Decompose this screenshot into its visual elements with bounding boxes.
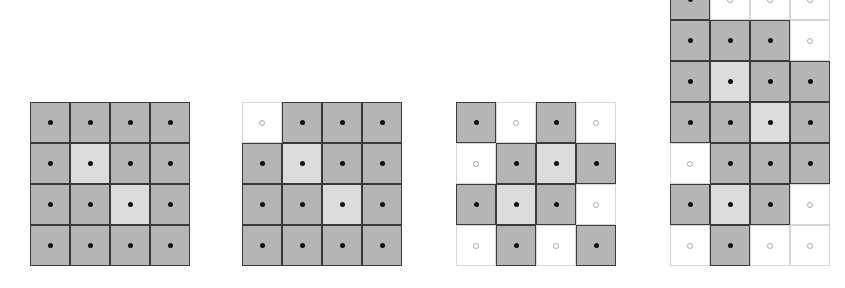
dot-icon: [300, 243, 305, 248]
grid-cell-filled: [322, 225, 362, 266]
dot-icon: [380, 161, 385, 166]
dot-icon: [260, 161, 265, 166]
grid-cell-filled: [496, 143, 536, 184]
dot-icon: [728, 79, 733, 84]
dot-icon: [88, 161, 93, 166]
grid-cell-empty: [750, 0, 790, 20]
grid-cell-filled: [30, 102, 70, 143]
grid-cell-empty: [670, 143, 710, 184]
grid-cell-filled: [576, 143, 616, 184]
dot-icon: [728, 161, 733, 166]
grid-cell-empty: [536, 225, 576, 266]
dot-icon: [48, 243, 53, 248]
grid-cell-light: [282, 143, 322, 184]
dot-icon: [260, 202, 265, 207]
grid-cell-filled: [30, 184, 70, 225]
grid-cell-empty: [790, 225, 830, 266]
grid-cell-filled: [790, 61, 830, 102]
dot-icon: [128, 243, 133, 248]
dot-icon: [554, 202, 559, 207]
dot-icon: [808, 161, 813, 166]
grid-cell-filled: [790, 102, 830, 143]
dot-icon: [728, 243, 733, 248]
grid-cell-empty: [456, 143, 496, 184]
grid-cell-filled: [70, 102, 110, 143]
dot-icon: [808, 120, 813, 125]
dot-icon: [340, 161, 345, 166]
dot-icon: [260, 243, 265, 248]
hollow-circle-icon: [513, 120, 519, 126]
grid-cell-filled: [536, 102, 576, 143]
grid-cell-light: [710, 61, 750, 102]
dot-icon: [168, 243, 173, 248]
dot-icon: [688, 202, 693, 207]
grid-cell-filled: [536, 184, 576, 225]
grid-cell-empty: [790, 0, 830, 20]
dot-icon: [594, 161, 599, 166]
grid-cell-light: [322, 184, 362, 225]
dot-icon: [728, 120, 733, 125]
dot-icon: [768, 38, 773, 43]
dot-icon: [768, 120, 773, 125]
grid-cell-filled: [362, 225, 402, 266]
grid-cell-filled: [710, 225, 750, 266]
dot-icon: [48, 120, 53, 125]
grid-cell-filled: [790, 143, 830, 184]
hollow-circle-icon: [553, 243, 559, 249]
grid-cell-filled: [362, 184, 402, 225]
dot-icon: [300, 120, 305, 125]
grid-cell-empty: [750, 225, 790, 266]
hollow-circle-icon: [807, 202, 813, 208]
hollow-circle-icon: [593, 120, 599, 126]
hollow-circle-icon: [767, 243, 773, 249]
dot-icon: [168, 161, 173, 166]
dot-icon: [300, 161, 305, 166]
dot-icon: [474, 120, 479, 125]
grid-cell-light: [536, 143, 576, 184]
hollow-circle-icon: [807, 38, 813, 44]
grid-cell-filled: [30, 143, 70, 184]
grid-cell-filled: [670, 61, 710, 102]
grid-cell-filled: [242, 225, 282, 266]
grid-cell-filled: [750, 184, 790, 225]
hollow-circle-icon: [473, 243, 479, 249]
hollow-circle-icon: [473, 161, 479, 167]
grid-cell-filled: [110, 143, 150, 184]
grid-cell-empty: [496, 102, 536, 143]
grid-cell-filled: [30, 225, 70, 266]
grid-cell-filled: [70, 225, 110, 266]
grid-cell-filled: [150, 143, 190, 184]
dot-icon: [380, 120, 385, 125]
dot-icon: [88, 202, 93, 207]
grid-cell-light: [750, 102, 790, 143]
dot-icon: [48, 202, 53, 207]
grid-cell-empty: [242, 102, 282, 143]
grid-cell-filled: [362, 143, 402, 184]
dot-icon: [808, 79, 813, 84]
dot-icon: [688, 38, 693, 43]
grid-cell-filled: [750, 20, 790, 61]
grid-cell-empty: [670, 225, 710, 266]
grid-cell-filled: [456, 184, 496, 225]
dot-icon: [128, 202, 133, 207]
hollow-circle-icon: [687, 243, 693, 249]
grid-cell-filled: [322, 143, 362, 184]
dot-icon: [514, 243, 519, 248]
dot-icon: [514, 202, 519, 207]
dot-icon: [168, 120, 173, 125]
grid-cell-filled: [710, 20, 750, 61]
dot-icon: [728, 38, 733, 43]
hollow-circle-icon: [767, 0, 773, 3]
grid-cell-filled: [242, 143, 282, 184]
grid-cell-filled: [282, 184, 322, 225]
grid-cell-filled: [70, 184, 110, 225]
hollow-circle-icon: [593, 202, 599, 208]
dot-icon: [474, 202, 479, 207]
dot-icon: [128, 120, 133, 125]
dot-icon: [688, 0, 693, 2]
grid-cell-light: [710, 184, 750, 225]
dot-icon: [340, 202, 345, 207]
grid-cell-filled: [322, 102, 362, 143]
grid-cell-empty: [576, 184, 616, 225]
dot-icon: [88, 243, 93, 248]
